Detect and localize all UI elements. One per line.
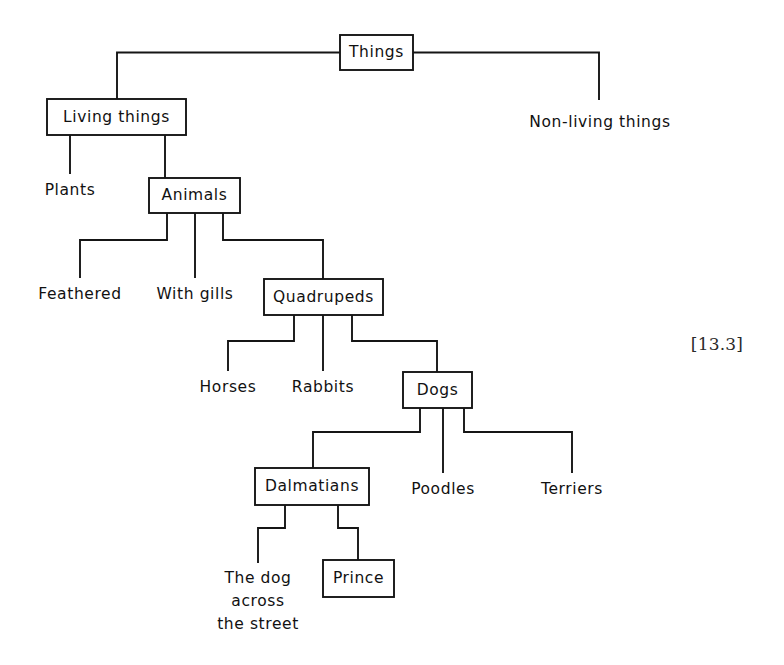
edge-quadrupeds-dogs — [352, 315, 437, 372]
node-dogs-label: Dogs — [417, 381, 459, 399]
edge-quadrupeds-horses — [228, 315, 294, 370]
figure-reference-label: [13.3] — [691, 334, 743, 354]
node-the-dog-line-3: the street — [217, 615, 299, 633]
node-dalmatians-label: Dalmatians — [265, 477, 359, 495]
edge-things-living-things — [117, 53, 340, 100]
node-poodles-label: Poodles — [411, 480, 475, 498]
edge-animals-feathered — [80, 213, 167, 277]
node-living-things-label: Living things — [63, 108, 170, 126]
node-plants-label: Plants — [45, 181, 96, 199]
node-terriers-label: Terriers — [540, 480, 603, 498]
node-with-gills-label: With gills — [157, 285, 234, 303]
tree-canvas: Things Living things Animals Quadrupeds … — [0, 0, 784, 665]
node-the-dog-line-1: The dog — [223, 569, 291, 587]
node-things-label: Things — [348, 43, 404, 61]
edge-dalmatians-prince — [338, 505, 358, 560]
node-living-things[interactable]: Living things — [47, 99, 186, 135]
node-prince-label: Prince — [333, 569, 384, 587]
node-dalmatians[interactable]: Dalmatians — [255, 468, 369, 505]
edge-dogs-dalmatians — [313, 408, 420, 468]
node-quadrupeds-label: Quadrupeds — [273, 288, 374, 306]
node-the-dog-across-the-street: The dog across the street — [217, 569, 299, 633]
node-quadrupeds[interactable]: Quadrupeds — [264, 279, 383, 315]
node-feathered-label: Feathered — [38, 285, 121, 303]
node-things[interactable]: Things — [340, 35, 413, 70]
node-horses-label: Horses — [200, 378, 257, 396]
edge-dalmatians-the-dog — [258, 505, 285, 562]
hierarchy-diagram: Things Living things Animals Quadrupeds … — [0, 0, 784, 665]
node-the-dog-line-2: across — [231, 592, 284, 610]
node-animals-label: Animals — [162, 186, 228, 204]
node-dogs[interactable]: Dogs — [403, 372, 472, 408]
edge-animals-quadrupeds — [223, 213, 323, 279]
node-animals[interactable]: Animals — [149, 178, 240, 213]
edge-things-non-living-things — [413, 53, 599, 100]
node-non-living-things-label: Non-living things — [529, 113, 670, 131]
node-rabbits-label: Rabbits — [292, 378, 354, 396]
edge-dogs-terriers — [464, 408, 572, 472]
node-prince[interactable]: Prince — [323, 560, 394, 597]
